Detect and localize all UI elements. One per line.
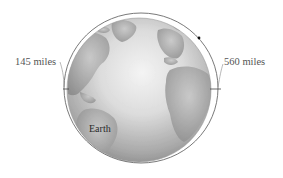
right-altitude-marker (210, 64, 223, 89)
diagram-canvas: 145 miles 560 miles Earth (0, 0, 283, 178)
diagram-svg (0, 0, 283, 178)
apogee-label: 560 miles (224, 57, 265, 68)
perigee-label: 145 miles (15, 57, 56, 68)
earth-label: Earth (89, 124, 111, 134)
satellite-dot (198, 37, 201, 40)
earth-globe (67, 18, 212, 162)
